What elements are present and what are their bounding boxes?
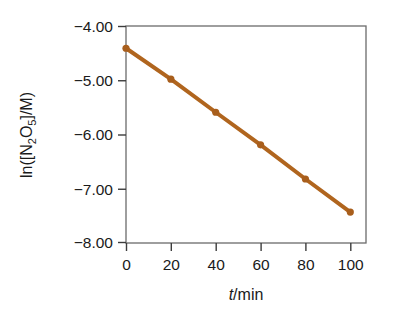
y-tick-label: −4.00 [74, 18, 114, 35]
y-tick-label: −7.00 [74, 181, 114, 198]
x-tick-label: 60 [252, 256, 270, 273]
x-tick-label: 80 [297, 256, 315, 273]
x-axis-title: t/min [229, 286, 264, 303]
data-point [212, 109, 219, 116]
x-tick-label: 20 [163, 256, 181, 273]
x-axis-title-rest: /min [233, 286, 263, 303]
y-tick-labels: −4.00 −5.00 −6.00 −7.00 −8.00 [74, 18, 114, 251]
data-point [257, 141, 264, 148]
data-point [347, 208, 354, 215]
x-axis-ticks [127, 243, 351, 251]
y-axis-title-suffix: ]/M) [18, 92, 35, 120]
x-tick-labels: 0 20 40 60 80 100 [122, 256, 364, 273]
line-chart: −4.00 −5.00 −6.00 −7.00 −8.00 0 20 40 60… [0, 0, 414, 323]
x-tick-label: 40 [208, 256, 226, 273]
y-axis-title-prefix: ln([N [18, 144, 35, 178]
y-tick-label: −5.00 [74, 72, 114, 89]
y-axis-title-mid: O [18, 126, 35, 138]
y-axis-title: ln([N2O5]/M) [18, 92, 38, 178]
data-point [167, 76, 174, 83]
y-tick-label: −8.00 [74, 234, 114, 251]
data-point [122, 45, 129, 52]
x-tick-label: 0 [122, 256, 131, 273]
y-tick-label: −6.00 [74, 126, 114, 143]
data-point [302, 175, 309, 182]
y-axis-ticks [118, 27, 126, 243]
x-tick-label: 100 [338, 256, 364, 273]
chart-figure: −4.00 −5.00 −6.00 −7.00 −8.00 0 20 40 60… [0, 0, 414, 323]
